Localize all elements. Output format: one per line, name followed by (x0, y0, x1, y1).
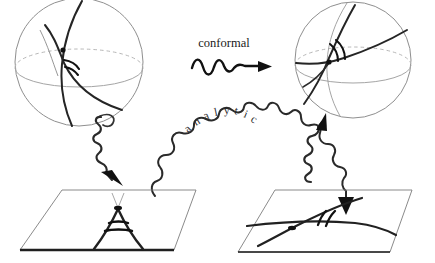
plane-right-angle-arc-2 (326, 211, 335, 226)
sphere-left-intersection-dot (60, 47, 65, 52)
plane-left-parallelogram (20, 190, 196, 250)
sphere-left-meridian-light (40, 30, 58, 76)
sphere-left-group (15, 0, 143, 126)
analytic-letter-t: t (234, 104, 240, 117)
plane-left-group (20, 190, 196, 250)
sphere-right-intersection-dot (326, 59, 331, 64)
sphere-left-angle-arc-2 (65, 67, 78, 75)
plane-left-cusp-dot (114, 206, 122, 210)
projection-right-wavy-path (304, 122, 322, 182)
projection-arrow-left-group (93, 117, 123, 186)
conformal-arrow-group: conformal (192, 36, 272, 75)
plane-left-tangent-2 (118, 193, 124, 208)
plane-right-crossing-dot (288, 226, 296, 230)
projection-arrow-right-group (304, 113, 327, 182)
plane-left-angle-arc-2 (105, 230, 132, 232)
analytic-letter-n: n (191, 114, 202, 127)
plane-right-group (238, 190, 412, 252)
sphere-left-equator-back (15, 49, 143, 68)
analytic-letter-c: c (249, 113, 260, 126)
analytic-letter-y: y (224, 104, 230, 117)
sphere-right-geodesic-2 (296, 30, 407, 64)
sphere-right-equator-back (295, 47, 411, 65)
conformal-arrowhead (258, 61, 272, 72)
conformal-label: conformal (198, 36, 250, 50)
conformal-mapping-diagram: conformal a n a l y t i c (0, 0, 435, 263)
conformal-wavy-line (192, 60, 261, 75)
plane-left-tangent-1 (112, 193, 118, 208)
diagram-canvas: conformal a n a l y t i c (0, 0, 435, 263)
projection-right-arrowhead (316, 113, 327, 131)
analytic-wavy-path (152, 103, 346, 200)
sphere-right-outline (295, 2, 411, 118)
sphere-left-hook-curve (100, 115, 114, 127)
sphere-left-outline (15, 0, 143, 126)
plane-right-curve-horizontal (247, 222, 396, 235)
sphere-left-geodesic-2 (45, 25, 122, 110)
projection-left-arrowhead (101, 170, 123, 186)
plane-left-angle-arc-1 (109, 222, 128, 224)
sphere-right-group (295, 2, 411, 118)
